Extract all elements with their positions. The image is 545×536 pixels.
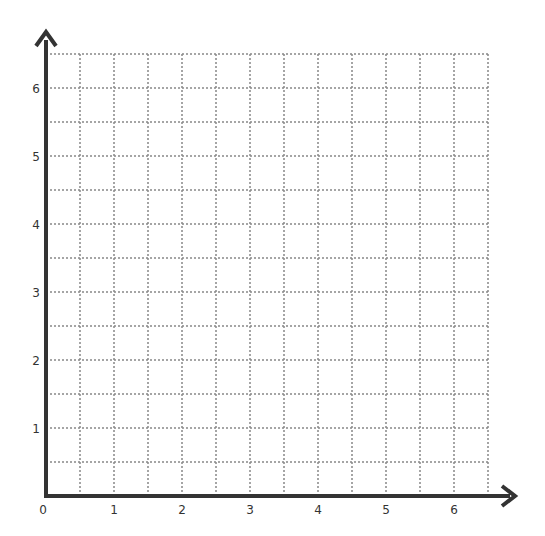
coordinate-grid: 0123456 123456 <box>0 0 545 536</box>
x-tick-label: 0 <box>39 503 47 517</box>
x-tick-labels: 0123456 <box>39 503 458 517</box>
grid-lines <box>46 54 488 496</box>
y-tick-label: 2 <box>32 354 40 368</box>
x-tick-label: 3 <box>246 503 254 517</box>
y-tick-labels: 123456 <box>32 82 40 436</box>
y-tick-label: 5 <box>32 150 40 164</box>
y-tick-label: 1 <box>32 422 40 436</box>
x-tick-label: 5 <box>382 503 390 517</box>
x-tick-label: 2 <box>178 503 186 517</box>
x-tick-label: 6 <box>450 503 458 517</box>
x-tick-label: 1 <box>110 503 118 517</box>
axes <box>36 32 515 506</box>
y-tick-label: 6 <box>32 82 40 96</box>
x-tick-label: 4 <box>314 503 322 517</box>
y-tick-label: 3 <box>32 286 40 300</box>
y-tick-label: 4 <box>32 218 40 232</box>
